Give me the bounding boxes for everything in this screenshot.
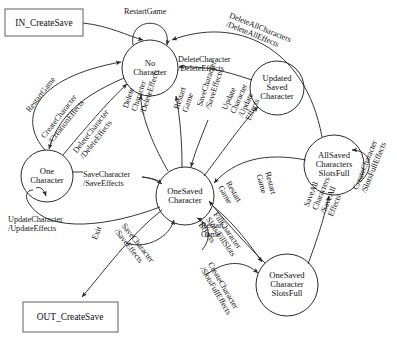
transition-label-restart-self: RestartGame: [124, 8, 166, 17]
state-diagram-canvas: IN_CreateSave OUT_CreateSave No Characte…: [0, 0, 397, 353]
terminal-label-out: OUT_CreateSave: [37, 312, 104, 322]
diagram-vector-layer: [0, 0, 397, 353]
edge-update-to-one-arrow: [36, 187, 46, 196]
state-circle-one-character: [21, 150, 73, 202]
state-circle-one-saved-slotsfull: [256, 254, 318, 316]
transition-label-update-one: UpdateCharacter /UpdateEffects: [8, 216, 63, 234]
transition-label-save-character: SaveCharacter /SaveEffects: [83, 171, 130, 189]
edge-save-character-top: [191, 120, 208, 167]
state-circle-one-saved-character: [156, 167, 214, 225]
edge-in-to-no-character: [83, 23, 143, 40]
edge-restart-self-no-character: [133, 23, 168, 45]
terminal-label-in: IN_CreateSave: [15, 18, 72, 28]
